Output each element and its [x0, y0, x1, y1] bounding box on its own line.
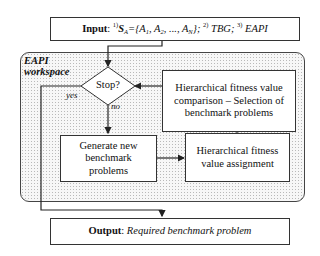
output-label: Output: [89, 225, 122, 236]
output-text: Required benchmark problem: [127, 225, 252, 236]
output-box: Output: Required benchmark problem: [50, 218, 290, 245]
